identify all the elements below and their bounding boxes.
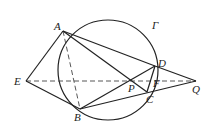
segment-EA	[26, 31, 63, 81]
label-A: A	[53, 20, 61, 32]
label-D: D	[157, 57, 166, 69]
label-F: F	[152, 77, 160, 89]
label-P: P	[127, 82, 135, 94]
label-E: E	[13, 75, 21, 87]
segment-BD	[80, 66, 155, 109]
geometry-diagram: A B C D E P F Q Γ	[0, 0, 214, 130]
label-Q: Q	[192, 83, 200, 95]
segment-AD	[63, 31, 155, 66]
label-C: C	[146, 93, 154, 105]
label-gamma: Γ	[151, 19, 159, 31]
segment-EB	[26, 81, 80, 109]
label-B: B	[74, 111, 81, 123]
